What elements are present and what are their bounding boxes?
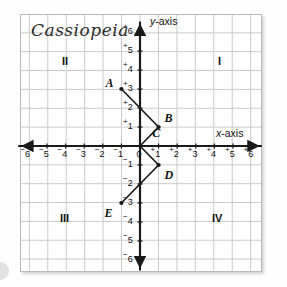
x-tick-0: 0 bbox=[137, 149, 142, 159]
tick-digit: 4 bbox=[62, 149, 67, 159]
x-tick-6: +6 bbox=[244, 149, 254, 159]
tick-sign: + bbox=[188, 145, 193, 154]
tick-sign: + bbox=[123, 41, 128, 50]
x-tick--6: −6 bbox=[20, 149, 30, 159]
tick-sign: − bbox=[113, 145, 118, 154]
x-tick-3: +3 bbox=[188, 149, 198, 159]
tick-digit: 2 bbox=[128, 102, 133, 112]
y-tick--4: −4 bbox=[123, 216, 133, 226]
tick-sign: − bbox=[123, 231, 128, 240]
tick-digit: 4 bbox=[128, 216, 133, 226]
quadrant-label-iv: IV bbox=[212, 212, 222, 224]
point-label-a: A bbox=[105, 76, 113, 91]
y-tick--6: −6 bbox=[123, 254, 133, 264]
tick-digit: 1 bbox=[128, 121, 133, 131]
y-tick-3: +3 bbox=[123, 83, 133, 93]
tick-digit: 0 bbox=[137, 149, 142, 159]
scan-artifact-blob bbox=[0, 262, 9, 280]
tick-sign: + bbox=[123, 79, 128, 88]
tick-digit: 6 bbox=[25, 149, 30, 159]
y-tick-1: +1 bbox=[123, 121, 133, 131]
tick-digit: 6 bbox=[128, 254, 133, 264]
quadrant-label-i: I bbox=[218, 55, 221, 67]
tick-sign: − bbox=[39, 145, 44, 154]
x-axis-label-suffix: -axis bbox=[221, 127, 243, 139]
tick-sign: − bbox=[123, 155, 128, 164]
tick-digit: 5 bbox=[230, 149, 235, 159]
x-tick--3: −3 bbox=[76, 149, 86, 159]
tick-digit: 6 bbox=[128, 26, 133, 36]
tick-digit: 3 bbox=[192, 149, 197, 159]
point-label-e: E bbox=[104, 206, 112, 221]
tick-sign: − bbox=[123, 193, 128, 202]
tick-sign: + bbox=[206, 145, 211, 154]
tick-sign: + bbox=[123, 22, 128, 31]
y-tick-5: +5 bbox=[123, 45, 133, 55]
y-tick--1: −1 bbox=[123, 159, 133, 169]
plane-graphics bbox=[20, 14, 262, 272]
tick-sign: − bbox=[58, 145, 63, 154]
x-tick-1: +1 bbox=[151, 149, 161, 159]
x-tick--5: −5 bbox=[39, 149, 49, 159]
x-tick-2: +2 bbox=[169, 149, 179, 159]
coordinate-plane-figure: Cassiopeia y-axis x-axis II I III IV −6−… bbox=[0, 0, 287, 287]
quadrant-label-iii: III bbox=[60, 212, 69, 224]
x-tick--2: −2 bbox=[95, 149, 105, 159]
tick-sign: − bbox=[76, 145, 81, 154]
tick-digit: 4 bbox=[128, 64, 133, 74]
x-tick-5: +5 bbox=[225, 149, 235, 159]
y-tick-2: +2 bbox=[123, 102, 133, 112]
tick-sign: − bbox=[123, 174, 128, 183]
y-axis-label-suffix: -axis bbox=[155, 15, 177, 27]
page-title: Cassiopeia bbox=[31, 20, 129, 40]
tick-sign: + bbox=[123, 117, 128, 126]
tick-sign: + bbox=[123, 98, 128, 107]
y-tick-6: +6 bbox=[123, 26, 133, 36]
x-axis-label: x-axis bbox=[216, 127, 243, 139]
tick-sign: + bbox=[225, 145, 230, 154]
x-tick-4: +4 bbox=[206, 149, 216, 159]
tick-sign: − bbox=[20, 145, 25, 154]
tick-digit: 3 bbox=[128, 83, 133, 93]
tick-digit: 6 bbox=[248, 149, 253, 159]
y-tick--5: −5 bbox=[123, 235, 133, 245]
tick-sign: + bbox=[151, 145, 156, 154]
point-label-d: D bbox=[165, 168, 174, 183]
y-tick-4: +4 bbox=[123, 64, 133, 74]
tick-digit: 5 bbox=[44, 149, 49, 159]
tick-sign: − bbox=[123, 212, 128, 221]
y-tick--2: −2 bbox=[123, 178, 133, 188]
tick-digit: 3 bbox=[81, 149, 86, 159]
quadrant-label-ii: II bbox=[62, 55, 68, 67]
tick-digit: 1 bbox=[128, 159, 133, 169]
tick-digit: 4 bbox=[211, 149, 216, 159]
tick-digit: 2 bbox=[174, 149, 179, 159]
tick-sign: + bbox=[169, 145, 174, 154]
tick-digit: 5 bbox=[128, 45, 133, 55]
tick-digit: 2 bbox=[128, 178, 133, 188]
y-tick--3: −3 bbox=[123, 197, 133, 207]
tick-digit: 5 bbox=[128, 235, 133, 245]
x-tick--1: −1 bbox=[113, 149, 123, 159]
tick-sign: + bbox=[244, 145, 249, 154]
tick-digit: 3 bbox=[128, 197, 133, 207]
tick-sign: − bbox=[123, 250, 128, 259]
tick-sign: − bbox=[95, 145, 100, 154]
point-label-c: C bbox=[152, 126, 160, 141]
x-tick--4: −4 bbox=[58, 149, 68, 159]
tick-sign: + bbox=[123, 60, 128, 69]
point-label-b: B bbox=[165, 111, 173, 126]
tick-digit: 2 bbox=[99, 149, 104, 159]
tick-digit: 1 bbox=[155, 149, 160, 159]
y-axis-label: y-axis bbox=[150, 15, 177, 27]
